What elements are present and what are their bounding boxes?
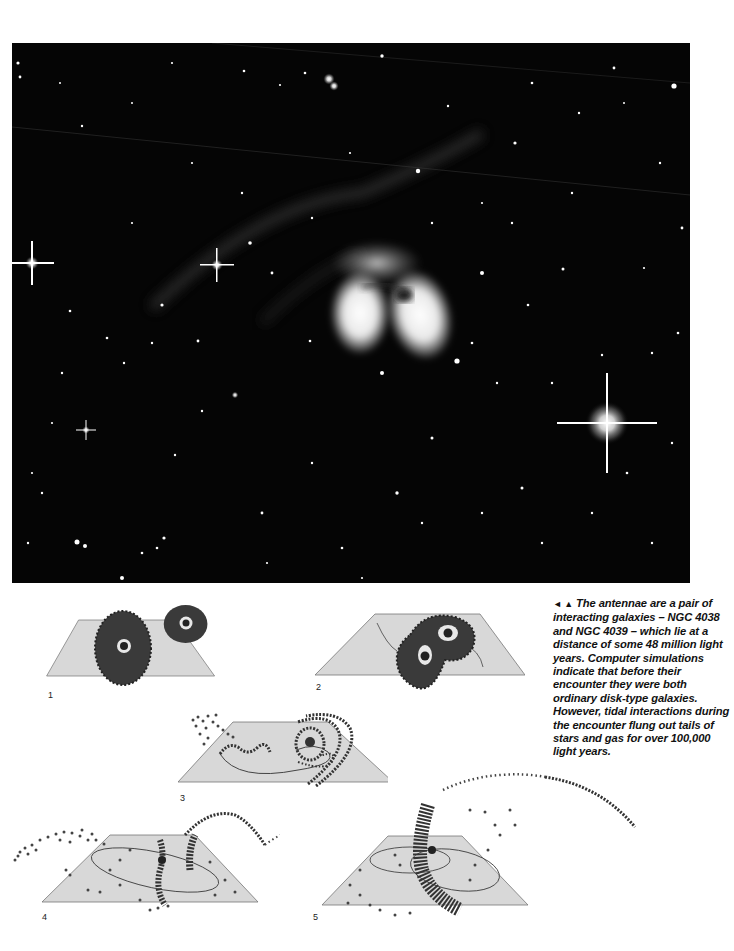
caption-text: The antennae are a pair of interacting g… xyxy=(553,597,729,757)
caption-arrows-icon: ◄ ▲ xyxy=(553,599,573,609)
simulation-panel-2 xyxy=(315,605,525,700)
simulation-panel-4 xyxy=(10,800,280,925)
panel-label-1: 1 xyxy=(48,690,53,700)
simulation-panel-1 xyxy=(45,598,215,693)
figure-caption: ◄ ▲The antennae are a pair of interactin… xyxy=(553,597,731,759)
panel-label-2: 2 xyxy=(316,682,321,692)
panel-label-4: 4 xyxy=(42,912,47,922)
panel-label-5: 5 xyxy=(313,912,318,922)
simulation-panel-5 xyxy=(310,755,650,925)
bright-star xyxy=(557,373,657,473)
galaxy-pair xyxy=(330,241,463,368)
star-field xyxy=(12,43,690,583)
antennae-galaxies-photo xyxy=(12,43,690,583)
